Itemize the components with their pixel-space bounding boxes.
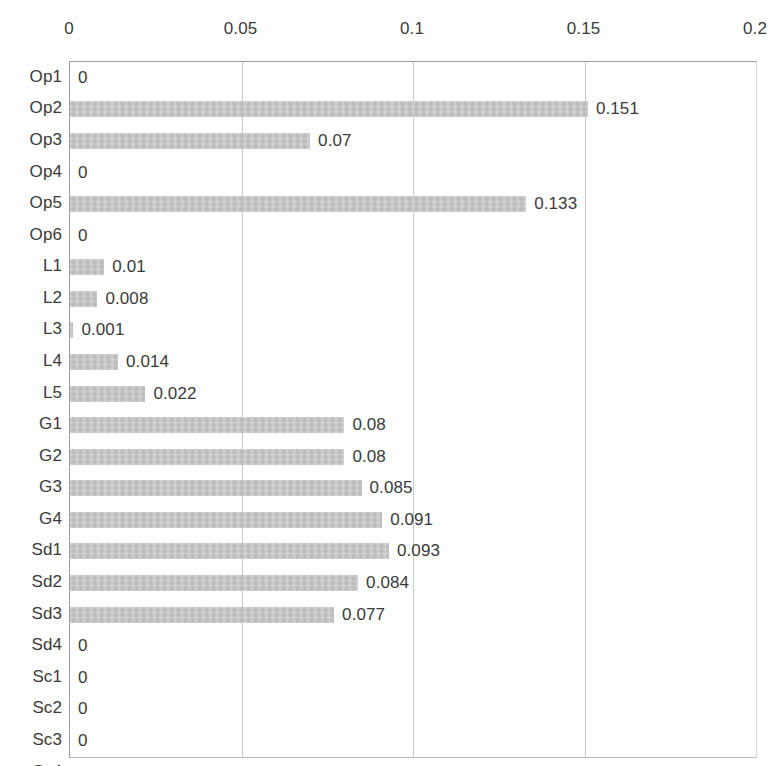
x-axis-tick-label: 0.2 <box>743 19 767 39</box>
bar-value-label: 0.077 <box>342 605 385 625</box>
bar-value-label: 0 <box>78 763 88 766</box>
bar-value-label: 0.151 <box>596 99 639 119</box>
y-axis-category-label: Op1 <box>0 67 62 87</box>
gridline <box>413 62 414 757</box>
y-axis-category-label: L3 <box>0 319 62 339</box>
bar-value-label: 0 <box>78 163 88 183</box>
bar-value-label: 0.133 <box>534 194 577 214</box>
x-axis-tick-label: 0.15 <box>567 19 601 39</box>
bar <box>70 449 344 465</box>
y-axis-category-label: L5 <box>0 383 62 403</box>
bar <box>70 291 97 307</box>
y-axis-category-label: Sd1 <box>0 540 62 560</box>
bar-value-label: 0.085 <box>370 478 413 498</box>
y-axis-category-label: L1 <box>0 256 62 276</box>
bar <box>70 480 362 496</box>
bar <box>70 512 382 528</box>
bar-value-label: 0 <box>78 668 88 688</box>
bar-value-label: 0.084 <box>366 573 409 593</box>
y-axis-category-label: Sc2 <box>0 698 62 718</box>
bar <box>70 575 358 591</box>
y-axis-category-label: L4 <box>0 351 62 371</box>
bar <box>70 322 73 338</box>
bar-value-label: 0 <box>78 226 88 246</box>
bar <box>70 417 344 433</box>
bar-value-label: 0.01 <box>112 257 146 277</box>
y-axis-category-label: Sc1 <box>0 667 62 687</box>
bar-value-label: 0.093 <box>397 541 440 561</box>
y-axis-category-label: Sd2 <box>0 572 62 592</box>
chart-title <box>0 0 770 5</box>
bar-value-label: 0.008 <box>105 289 148 309</box>
bar-value-label: 0.07 <box>318 131 352 151</box>
y-axis-category-label: G4 <box>0 509 62 529</box>
y-axis-category-label: Op3 <box>0 130 62 150</box>
bar-value-label: 0 <box>78 636 88 656</box>
bar-value-label: 0 <box>78 731 88 751</box>
y-axis-category-label: L2 <box>0 288 62 308</box>
plot-area: 00.1510.0700.13300.010.0080.0010.0140.02… <box>69 61 757 758</box>
y-axis-category-label: Sd3 <box>0 604 62 624</box>
y-axis-category-label: Op5 <box>0 193 62 213</box>
bar-value-label: 0.08 <box>352 447 386 467</box>
gridline <box>585 62 586 757</box>
bar <box>70 386 145 402</box>
bar-value-label: 0.014 <box>126 352 169 372</box>
y-axis-category-label: Sc4 <box>0 762 62 766</box>
x-axis-tick-label: 0.05 <box>224 19 258 39</box>
gridline <box>242 62 243 757</box>
y-axis-category-label: Sc3 <box>0 730 62 750</box>
y-axis-category-label: Sd4 <box>0 635 62 655</box>
x-axis-tick-label: 0.1 <box>400 19 424 39</box>
bar <box>70 196 526 212</box>
bar-value-label: 0.022 <box>153 384 196 404</box>
y-axis-category-label: Op2 <box>0 98 62 118</box>
bar <box>70 354 118 370</box>
bar <box>70 101 588 117</box>
bar <box>70 543 389 559</box>
bar-value-label: 0.08 <box>352 415 386 435</box>
y-axis-category-label: G3 <box>0 477 62 497</box>
x-axis-tick-label: 0 <box>64 19 74 39</box>
bar-chart: 00.050.10.150.2 Op1Op2Op3Op4Op5Op6L1L2L3… <box>0 0 770 766</box>
y-axis-category-label: G2 <box>0 446 62 466</box>
bar <box>70 259 104 275</box>
bar <box>70 133 310 149</box>
y-axis-category-label: G1 <box>0 414 62 434</box>
bar <box>70 607 334 623</box>
bar-value-label: 0.091 <box>390 510 433 530</box>
bar-value-label: 0 <box>78 699 88 719</box>
bar-value-label: 0.001 <box>81 320 124 340</box>
x-axis-tick-labels: 00.050.10.150.2 <box>0 19 770 41</box>
y-axis-category-label: Op6 <box>0 225 62 245</box>
bar-value-label: 0 <box>78 68 88 88</box>
y-axis-category-label: Op4 <box>0 162 62 182</box>
